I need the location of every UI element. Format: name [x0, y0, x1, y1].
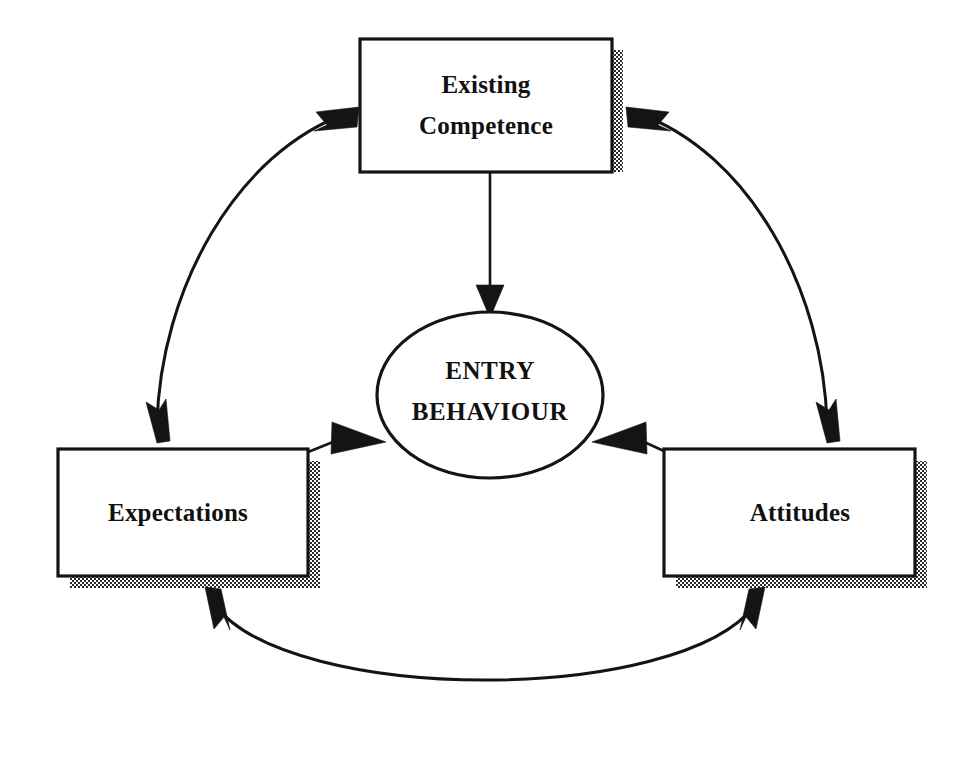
node-ellipse[interactable]: [377, 312, 603, 478]
node-label-line1: Attitudes: [750, 499, 850, 526]
edge-competence-to-entry: [476, 161, 504, 318]
diagram-canvas: Existing Competence ENTRY BEHAVIOUR Expe…: [0, 0, 974, 760]
edge-expectations-attitudes: [205, 587, 765, 680]
node-box[interactable]: [360, 39, 612, 172]
node-expectations[interactable]: Expectations: [58, 449, 308, 576]
arrow-head-to-competence: [626, 107, 671, 131]
node-label-line1: ENTRY: [445, 357, 535, 384]
edge-expectations-to-entry: [308, 422, 386, 454]
arrow-head-to-competence: [314, 107, 359, 131]
arrow-head-to-attitudes: [816, 399, 840, 443]
node-existing-competence[interactable]: Existing Competence: [360, 39, 612, 172]
arrow-head-to-attitudes: [740, 587, 765, 630]
edge-line: [637, 113, 827, 425]
edge-attitudes-to-entry: [592, 422, 666, 454]
arrow-head-left: [592, 422, 647, 454]
edge-competence-expectations: [146, 107, 359, 443]
node-attitudes[interactable]: Attitudes: [664, 449, 915, 576]
node-label-line1: Existing: [441, 71, 530, 98]
node-label-line2: Competence: [419, 112, 553, 139]
node-entry-behaviour[interactable]: ENTRY BEHAVIOUR: [377, 312, 603, 478]
node-label-line2: BEHAVIOUR: [412, 398, 569, 425]
edge-line: [215, 605, 755, 680]
entry-behaviour-diagram: Existing Competence ENTRY BEHAVIOUR Expe…: [0, 0, 974, 760]
node-label-line1: Expectations: [108, 499, 248, 526]
edge-competence-attitudes: [626, 107, 840, 443]
arrow-head-right: [331, 422, 386, 454]
arrow-head-to-expectations: [205, 587, 230, 630]
edge-line: [157, 113, 348, 425]
